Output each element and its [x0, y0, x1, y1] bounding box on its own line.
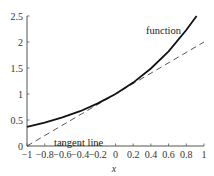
x-axis-label: x	[111, 163, 117, 174]
x-tick-label: −1	[22, 149, 33, 160]
y-tick-label: 2	[18, 37, 23, 48]
x-tick-label: −0.2	[89, 149, 107, 160]
x-tick-label: 0.2	[127, 149, 140, 160]
y-tick-label: 1.5	[11, 63, 24, 74]
chart: −1−0.8−0.6−0.4−0.200.20.40.60.8100.511.5…	[0, 0, 214, 176]
x-tick-label: 1	[202, 149, 207, 160]
y-tick-label: 1	[18, 89, 23, 100]
x-tick-label: 0	[113, 149, 118, 160]
x-tick-label: −0.4	[71, 149, 89, 160]
tangent-line-annotation: tangent line	[54, 137, 104, 148]
y-tick-label: 2.5	[11, 11, 24, 22]
y-tick-label: 0	[18, 141, 23, 152]
y-tick-label: 0.5	[11, 115, 24, 126]
x-tick-label: 0.8	[180, 149, 193, 160]
function-annotation: function	[146, 25, 182, 36]
x-tick-label: 0.6	[162, 149, 175, 160]
x-tick-label: −0.6	[53, 149, 71, 160]
x-tick-label: 0.4	[145, 149, 158, 160]
x-tick-label: −0.8	[36, 149, 54, 160]
